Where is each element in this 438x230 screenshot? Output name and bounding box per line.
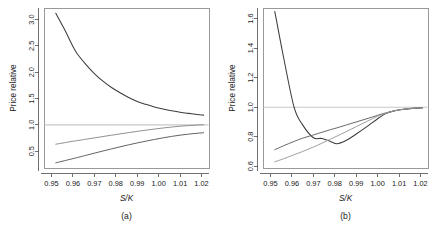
chart-svg-a: 0.950.960.970.980.991.001.011.020.51.01.…	[0, 0, 219, 230]
x-tick-label-a-0: 0.95	[44, 179, 58, 188]
curve-a-mid-rising	[56, 125, 204, 144]
x-tick-label-a-4: 0.99	[130, 179, 144, 188]
x-tick-label-a-3: 0.98	[109, 179, 123, 188]
curve-a-upper-decaying	[56, 13, 204, 115]
x-axis-title-b: S/K	[339, 194, 353, 203]
y-tick-label-a-5: 3.0	[27, 14, 36, 24]
y-tick-label-b-2: 1.0	[246, 102, 255, 112]
y-axis-title-a: Price relative	[9, 64, 18, 112]
x-tick-label-a-6: 1.01	[173, 179, 187, 188]
chart-svg-b: 0.950.960.970.980.991.001.011.020.60.81.…	[219, 0, 438, 230]
y-tick-label-b-1: 0.8	[246, 132, 255, 142]
x-tick-label-b-3: 0.98	[328, 179, 342, 188]
y-tick-label-a-3: 2.0	[27, 67, 36, 77]
y-tick-label-a-0: 0.5	[27, 146, 36, 156]
x-tick-label-a-5: 1.00	[151, 179, 165, 188]
x-axis-title-a: S/K	[120, 194, 134, 203]
y-tick-label-b-4: 1.4	[246, 43, 255, 53]
panel-caption-b: (b)	[340, 211, 351, 221]
y-tick-label-b-3: 1.2	[246, 73, 255, 83]
x-tick-label-b-4: 0.99	[349, 179, 363, 188]
plot-area-a: 0.950.960.970.980.991.001.011.020.51.01.…	[9, 8, 209, 221]
curve-a-lower-rising	[56, 133, 204, 163]
y-axis-title-b: Price relative	[228, 64, 237, 112]
x-tick-label-a-7: 1.02	[194, 179, 208, 188]
x-tick-label-b-5: 1.00	[370, 179, 384, 188]
plot-box-a	[44, 8, 209, 168]
chart-panel-b: 0.950.960.970.980.991.001.011.020.60.81.…	[219, 0, 438, 230]
chart-panel-a: 0.950.960.970.980.991.001.011.020.51.01.…	[0, 0, 219, 230]
x-tick-label-a-2: 0.97	[87, 179, 101, 188]
x-tick-label-a-1: 0.96	[66, 179, 80, 188]
y-tick-label-a-4: 2.5	[27, 41, 36, 51]
y-tick-label-a-1: 1.0	[27, 120, 36, 130]
y-tick-label-a-2: 1.5	[27, 93, 36, 103]
x-tick-label-b-6: 1.01	[392, 179, 406, 188]
figure-container: 0.950.960.970.980.991.001.011.020.51.01.…	[0, 0, 438, 230]
y-tick-label-b-0: 0.6	[246, 161, 255, 171]
x-tick-label-b-7: 1.02	[413, 179, 427, 188]
panel-caption-a: (a)	[121, 211, 132, 221]
y-tick-label-b-5: 1.6	[246, 13, 255, 23]
x-tick-label-b-1: 0.96	[285, 179, 299, 188]
x-tick-label-b-2: 0.97	[306, 179, 320, 188]
x-tick-label-b-0: 0.95	[263, 179, 277, 188]
plot-area-b: 0.950.960.970.980.991.001.011.020.60.81.…	[228, 8, 428, 221]
